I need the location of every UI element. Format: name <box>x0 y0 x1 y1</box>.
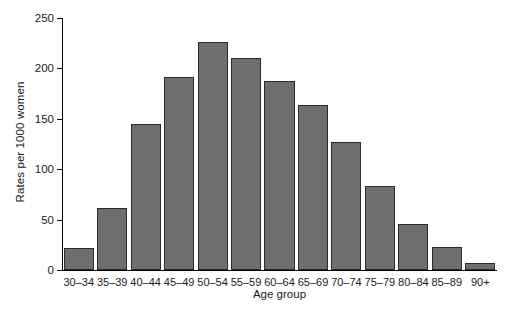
bar <box>264 81 294 271</box>
x-tick-label: 30–34 <box>63 276 94 288</box>
x-axis-label: Age group <box>62 288 497 300</box>
x-tick-label: 55–59 <box>231 276 262 288</box>
x-tick-label: 80–84 <box>398 276 429 288</box>
bar <box>432 247 462 270</box>
y-tick-label: 0 <box>48 264 54 276</box>
bar <box>465 263 495 270</box>
bar-series <box>62 18 497 270</box>
bar <box>64 248 94 270</box>
y-tick-mark <box>57 270 62 271</box>
y-tick-label: 200 <box>35 62 54 74</box>
bar <box>231 58 261 270</box>
bar <box>398 224 428 270</box>
x-tick-label: 60–64 <box>264 276 295 288</box>
bar <box>298 105 328 270</box>
x-tick-label: 65–69 <box>298 276 329 288</box>
y-tick-label: 150 <box>35 113 54 125</box>
x-tick-label: 70–74 <box>331 276 362 288</box>
x-tick-label: 40–44 <box>130 276 161 288</box>
x-tick-label: 35–39 <box>97 276 128 288</box>
bar <box>331 142 361 270</box>
y-tick-label: 250 <box>35 12 54 24</box>
bar <box>365 186 395 270</box>
bar <box>131 124 161 270</box>
plot-area: 050100150200250 30–3435–3940–4445–4950–5… <box>62 18 497 270</box>
y-tick-label: 50 <box>41 214 54 226</box>
bar <box>164 77 194 270</box>
y-axis-label: Rates per 1000 women <box>14 7 34 277</box>
bar <box>97 208 127 270</box>
x-tick-label: 90+ <box>471 276 490 288</box>
x-axis-line <box>62 270 497 271</box>
x-tick-label: 45–49 <box>164 276 195 288</box>
x-tick-label: 85–89 <box>432 276 463 288</box>
bar <box>198 42 228 270</box>
y-tick-label: 100 <box>35 163 54 175</box>
bar-chart: Rates per 1000 women 050100150200250 30–… <box>0 0 513 316</box>
x-tick-label: 50–54 <box>197 276 228 288</box>
x-tick-label: 75–79 <box>365 276 396 288</box>
